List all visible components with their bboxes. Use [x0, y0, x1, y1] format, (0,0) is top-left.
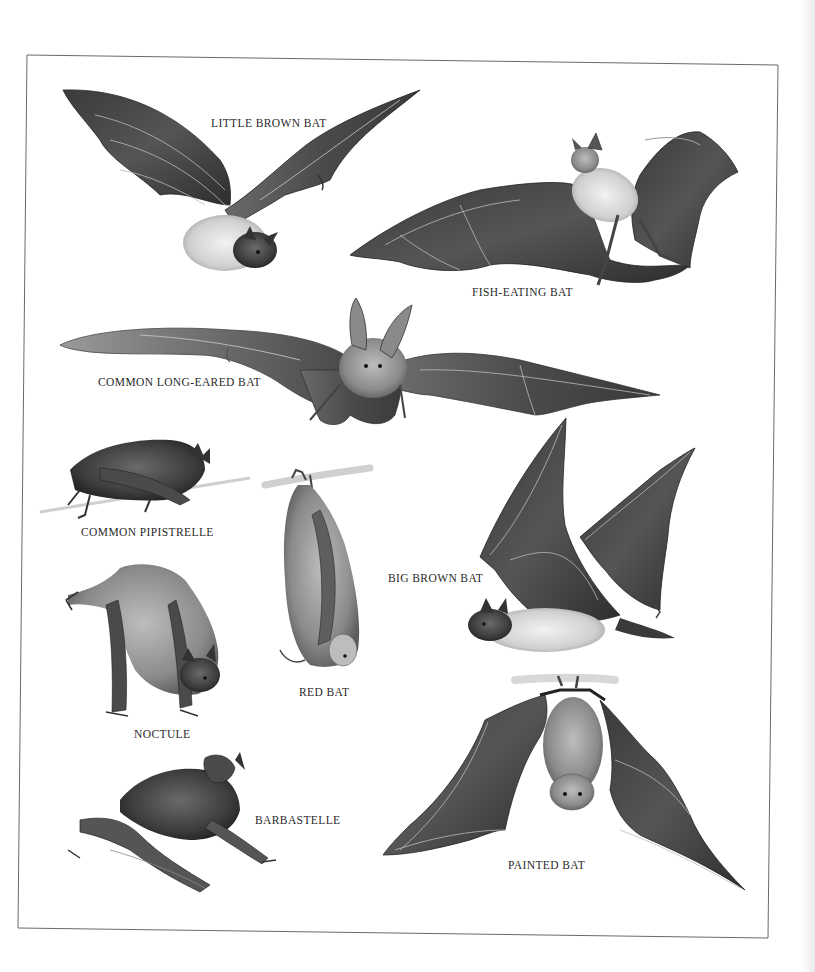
barbastelle-illustration	[68, 752, 276, 892]
page-edge-shadow	[801, 0, 815, 972]
label-fish-eating-bat: FISH-EATING BAT	[472, 287, 573, 299]
label-red-bat: RED BAT	[299, 687, 349, 699]
bat-illustrations	[0, 0, 815, 972]
fish-eating-bat-illustration	[350, 132, 738, 285]
big-brown-bat-illustration	[468, 418, 695, 652]
label-noctule: NOCTULE	[134, 729, 190, 741]
label-painted-bat: PAINTED BAT	[508, 860, 585, 872]
painted-bat-illustration	[383, 676, 745, 890]
noctule-illustration	[66, 564, 220, 716]
label-barbastelle: BARBASTELLE	[255, 815, 341, 827]
common-long-eared-bat-illustration	[60, 298, 660, 425]
label-little-brown-bat: LITTLE BROWN BAT	[211, 118, 327, 130]
label-big-brown-bat: BIG BROWN BAT	[388, 573, 483, 585]
label-common-long-eared-bat: COMMON LONG-EARED BAT	[98, 377, 261, 389]
red-bat-illustration	[265, 468, 370, 667]
common-pipistrelle-illustration	[40, 440, 250, 518]
label-common-pipistrelle: COMMON PIPISTRELLE	[81, 527, 214, 539]
illustration-plate: LITTLE BROWN BAT FISH-EATING BAT COMMON …	[0, 0, 815, 972]
